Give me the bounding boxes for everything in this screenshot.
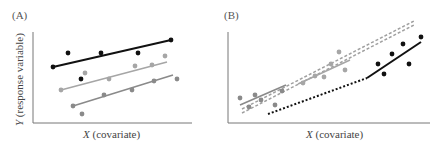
panel-b-regression-lines	[240, 42, 421, 105]
panel-a-regression-lines	[53, 40, 173, 106]
panel-b-axes	[228, 32, 430, 123]
panel-a-axes	[33, 32, 192, 123]
figure-canvas	[0, 0, 439, 143]
panel-b-dashed-lines	[242, 21, 414, 114]
panel-b-points-gray	[238, 50, 348, 110]
